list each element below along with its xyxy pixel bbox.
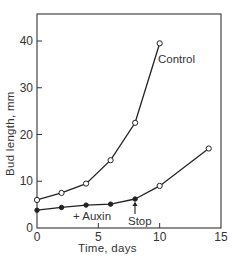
open-marker-icon (206, 146, 211, 151)
open-marker-icon (59, 190, 64, 195)
open-marker-icon (108, 158, 113, 163)
stop-label: Stop (128, 215, 152, 227)
x-axis-label: Time, days (78, 242, 137, 254)
open-marker-icon (157, 41, 162, 46)
open-marker-icon (133, 120, 138, 125)
series-line (37, 43, 160, 200)
line-chart: 010203040051015 Bud length, mm Time, day… (0, 0, 233, 263)
filled-marker-icon (84, 203, 88, 207)
open-marker-icon (34, 197, 39, 202)
plot-frame (37, 14, 221, 228)
open-marker-icon (157, 183, 162, 188)
filled-marker-icon (133, 197, 137, 201)
filled-marker-icon (59, 205, 63, 209)
y-tick-label: 0 (26, 221, 33, 235)
data-series (34, 41, 211, 213)
y-tick-label: 30 (20, 81, 34, 95)
y-tick-label: 10 (20, 174, 34, 188)
x-tick-label: 0 (34, 230, 41, 244)
y-tick-label: 20 (20, 128, 34, 142)
filled-marker-icon (108, 202, 112, 206)
y-tick-label: 40 (20, 34, 34, 48)
series-line (135, 149, 209, 200)
y-axis-label: Bud length, mm (4, 91, 16, 176)
x-tick-label: 10 (153, 230, 167, 244)
filled-marker-icon (35, 208, 39, 212)
x-tick-label: 15 (214, 230, 228, 244)
auxin-label: + Auxin (73, 210, 111, 222)
open-marker-icon (83, 181, 88, 186)
stop-arrow-icon (133, 202, 138, 215)
control-label: Control (158, 53, 195, 65)
